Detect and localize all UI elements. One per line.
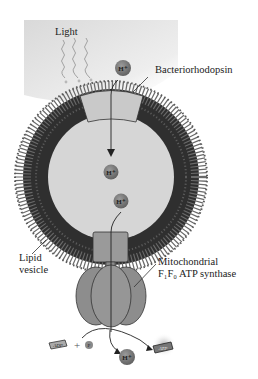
proton-ball-top: H⁺ bbox=[115, 60, 131, 76]
proton-ball-inside: H⁺ bbox=[104, 165, 119, 180]
bacteriorhodopsin-protein bbox=[80, 91, 143, 123]
proton-ball-out: H⁺ bbox=[119, 349, 135, 365]
atp-synthase-label-line2: F₁F₀ ATP synthase bbox=[158, 268, 236, 280]
light-background bbox=[24, 20, 178, 102]
phosphate-icon: P bbox=[85, 341, 93, 349]
proton-ball-lower: H⁺ bbox=[114, 194, 129, 209]
svg-text:H⁺: H⁺ bbox=[118, 65, 127, 73]
atp-synthase-label-line1: Mitochondrial bbox=[158, 256, 218, 268]
svg-text:H⁺: H⁺ bbox=[106, 169, 115, 177]
lipid-vesicle-label-line2: vesicle bbox=[19, 264, 48, 276]
bacteriorhodopsin-atp-synthase-diagram: H⁺ H⁺ H⁺ H⁺ ADP + P ATP bbox=[0, 0, 258, 379]
svg-text:H⁺: H⁺ bbox=[116, 198, 125, 206]
bacteriorhodopsin-label: Bacteriorhodopsin bbox=[155, 64, 233, 76]
plus-sign: + bbox=[74, 339, 80, 351]
atp-synthase-fo bbox=[93, 232, 128, 262]
svg-text:ADP: ADP bbox=[52, 343, 63, 348]
svg-text:P: P bbox=[88, 343, 91, 348]
light-label: Light bbox=[55, 26, 78, 38]
svg-text:H⁺: H⁺ bbox=[122, 354, 131, 362]
svg-text:ATP: ATP bbox=[158, 346, 168, 351]
lipid-vesicle-label-line1: Lipid bbox=[19, 252, 42, 264]
adp-molecule-icon: ADP bbox=[49, 340, 67, 349]
atp-molecule-icon: ATP bbox=[152, 333, 176, 357]
